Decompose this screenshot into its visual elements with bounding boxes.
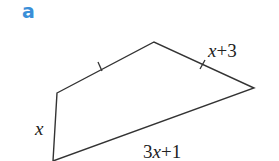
side-label-3x-plus-1: 3x+1 <box>143 141 181 161</box>
side-label-x: x <box>34 118 44 139</box>
side-label-x-plus-3: x+3 <box>207 40 237 61</box>
quadrilateral-diagram: x+3 x 3x+1 <box>0 0 279 161</box>
